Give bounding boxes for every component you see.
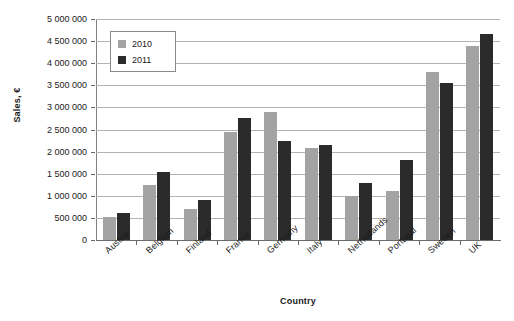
x-axis-label-uk: UK [467, 239, 483, 255]
bar-uk-2010 [466, 46, 479, 240]
bar-finland-2010 [184, 209, 197, 240]
bar-germany-2010 [264, 112, 277, 240]
legend-item-2011: 2011 [118, 52, 175, 68]
y-axis-tick-label: 2 000 000 [13, 148, 87, 157]
legend-swatch-2010-icon [118, 40, 126, 48]
y-axis-tick-label: 4 000 000 [13, 59, 87, 68]
y-axis-tick [91, 41, 95, 42]
legend-label-2010: 2010 [132, 40, 152, 49]
y-axis-tick [91, 174, 95, 175]
y-axis-tick-label: 3 500 000 [13, 81, 87, 90]
x-axis-tick [460, 240, 461, 245]
y-axis-tick [91, 240, 95, 241]
y-axis-tick-label: 1 500 000 [13, 170, 87, 179]
x-axis-tick [379, 240, 380, 245]
y-axis-tick-label: 2 500 000 [13, 126, 87, 135]
x-axis-tick [298, 240, 299, 245]
bar-belgium-2010 [143, 185, 156, 240]
chart-legend: 2010 2011 [110, 31, 176, 72]
bar-portugal-2010 [386, 191, 399, 240]
y-axis-tick [91, 152, 95, 153]
bar-uk-2011 [480, 34, 493, 240]
bar-chart: Sales, € 0500 0001 000 0001 500 0002 000… [0, 0, 514, 321]
y-axis-tick-label: 4 500 000 [13, 37, 87, 46]
y-axis-tick [91, 85, 95, 86]
y-axis-tick [91, 63, 95, 64]
legend-label-2011: 2011 [132, 56, 151, 65]
y-axis-tick-label: 5 000 000 [13, 15, 87, 24]
y-axis-tick-label: 0 [13, 236, 87, 245]
bar-france-2011 [238, 118, 251, 240]
bar-netherlands-2010 [345, 196, 358, 240]
bar-sweden-2011 [440, 83, 453, 240]
y-axis-tick [91, 107, 95, 108]
bar-italy-2011 [319, 145, 332, 240]
x-axis-tick [177, 240, 178, 245]
gridline [96, 19, 500, 20]
legend-item-2010: 2010 [118, 36, 175, 52]
y-axis-tick-label: 1 000 000 [13, 192, 87, 201]
y-axis-tick-label: 3 000 000 [13, 103, 87, 112]
y-axis-tick [91, 218, 95, 219]
x-axis-tick [338, 240, 339, 245]
bar-france-2010 [224, 132, 237, 240]
bar-italy-2010 [305, 148, 318, 240]
y-axis-tick [91, 19, 95, 20]
y-axis-tick-label: 500 000 [13, 214, 87, 223]
x-axis-tick [258, 240, 259, 245]
bar-sweden-2010 [426, 72, 439, 240]
x-axis-tick [217, 240, 218, 245]
y-axis-tick [91, 196, 95, 197]
legend-swatch-2011-icon [118, 56, 126, 64]
x-axis-title: Country [96, 296, 500, 306]
x-axis-tick [419, 240, 420, 245]
x-axis-tick [136, 240, 137, 245]
y-axis-tick [91, 130, 95, 131]
